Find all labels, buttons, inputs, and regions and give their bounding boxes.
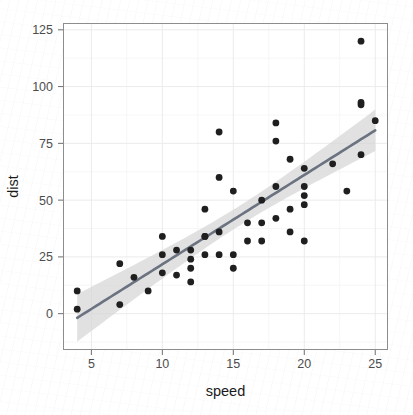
data-point	[173, 247, 180, 254]
y-axis-tick-marks	[58, 30, 63, 314]
data-point	[116, 301, 123, 308]
chart-root: 510152025 0255075100125 speed dist	[0, 0, 413, 415]
data-point	[74, 306, 81, 313]
data-point	[159, 251, 166, 258]
x-tick-label: 25	[368, 357, 382, 371]
data-point	[145, 288, 152, 295]
data-point	[230, 188, 237, 195]
data-point	[187, 247, 194, 254]
data-point	[287, 156, 294, 163]
data-point	[131, 274, 138, 281]
data-point	[258, 219, 265, 226]
data-point	[187, 265, 194, 272]
data-point	[372, 117, 379, 124]
data-point	[287, 206, 294, 213]
data-point	[272, 215, 279, 222]
data-point	[272, 120, 279, 127]
data-point	[216, 174, 223, 181]
data-point	[343, 188, 350, 195]
data-point	[202, 233, 209, 240]
data-point	[358, 38, 365, 45]
data-point	[187, 278, 194, 285]
data-point	[358, 99, 365, 106]
data-point	[74, 288, 81, 295]
x-tick-label: 10	[155, 357, 169, 371]
data-point	[159, 269, 166, 276]
data-point	[358, 151, 365, 158]
data-point	[230, 251, 237, 258]
data-point	[216, 129, 223, 136]
data-point	[202, 251, 209, 258]
data-point	[301, 165, 308, 172]
y-axis-tick-labels: 0255075100125	[32, 23, 53, 321]
data-point	[230, 265, 237, 272]
data-point	[173, 272, 180, 279]
data-point	[258, 197, 265, 204]
x-axis-tick-labels: 510152025	[88, 357, 382, 371]
data-point	[329, 160, 336, 167]
data-point	[301, 183, 308, 190]
x-axis-title: speed	[206, 383, 246, 399]
y-tick-label: 0	[46, 307, 53, 321]
y-axis-title: dist	[5, 175, 21, 198]
y-tick-label: 125	[32, 23, 53, 37]
x-tick-label: 15	[226, 357, 240, 371]
x-axis-tick-marks	[91, 350, 375, 355]
y-tick-label: 100	[32, 80, 53, 94]
data-point	[116, 260, 123, 267]
data-point	[244, 238, 251, 245]
x-tick-label: 5	[88, 357, 95, 371]
data-point	[301, 201, 308, 208]
data-point	[202, 206, 209, 213]
data-point	[244, 219, 251, 226]
y-tick-label: 50	[39, 194, 53, 208]
y-tick-label: 25	[39, 250, 53, 264]
data-point	[301, 238, 308, 245]
data-point	[216, 251, 223, 258]
data-point	[272, 138, 279, 145]
data-point	[301, 192, 308, 199]
data-point	[287, 229, 294, 236]
x-tick-label: 20	[297, 357, 311, 371]
y-tick-label: 75	[39, 137, 53, 151]
data-point	[216, 229, 223, 236]
data-point	[159, 233, 166, 240]
data-point	[258, 238, 265, 245]
data-point	[272, 183, 279, 190]
scatter-plot-svg: 510152025 0255075100125 speed dist	[0, 0, 413, 415]
data-point	[187, 256, 194, 263]
